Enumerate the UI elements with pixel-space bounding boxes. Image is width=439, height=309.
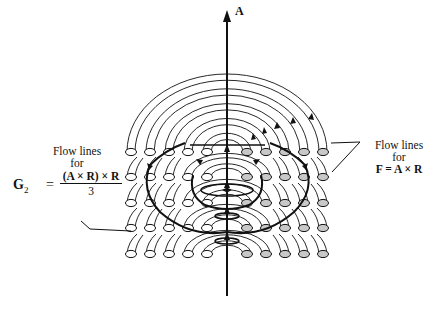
left-annotation-title: Flow lines for [42, 145, 112, 169]
fraction-denominator: 3 [60, 184, 122, 197]
right-leader-line [331, 142, 360, 172]
g2-fraction: (A × R) × R 3 [60, 170, 122, 197]
g-letter: G [13, 177, 24, 192]
right-annotation: Flow lines for F = A × R [362, 139, 436, 175]
g2-symbol: G2 [13, 177, 28, 195]
g-subscript: 2 [24, 185, 29, 195]
right-flow-lines-text: Flow lines [362, 139, 436, 151]
axis-A-label: A [235, 4, 244, 19]
fraction-numerator: (A × R) × R [60, 170, 122, 184]
left-flow-lines-text: Flow lines [42, 145, 112, 157]
right-for-text: for [362, 151, 436, 163]
diagram-canvas: A Flow lines for G2 = (A × R) × R 3 Flow… [0, 0, 439, 309]
f-formula: F = A × R [362, 163, 436, 175]
left-for-text: for [42, 157, 112, 169]
equals-sign: = [46, 177, 54, 193]
axis-A-arrowhead [223, 10, 231, 22]
left-leader-line [81, 221, 131, 231]
